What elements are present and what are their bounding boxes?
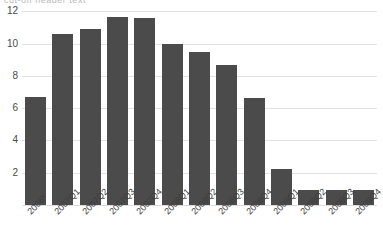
bar[interactable]	[189, 52, 210, 205]
y-axis-tick-label: 12	[0, 6, 18, 16]
bar[interactable]	[107, 17, 128, 205]
bar-series	[22, 0, 377, 206]
y-axis-tick-label: 4	[0, 135, 18, 145]
bar[interactable]	[216, 65, 237, 206]
y-axis-tick-label: 10	[0, 39, 18, 49]
bar[interactable]	[162, 44, 183, 206]
bar[interactable]	[52, 34, 73, 205]
bar[interactable]	[244, 98, 265, 205]
y-axis-tick-label: 8	[0, 71, 18, 81]
x-axis-labels: 2006*2007Q12007Q22007Q32007Q42008Q12008Q…	[22, 206, 377, 249]
y-axis-tick-label: 2	[0, 168, 18, 178]
plot-area	[22, 0, 377, 206]
y-axis-tick-label: 6	[0, 103, 18, 113]
bar[interactable]	[80, 29, 101, 205]
bar[interactable]	[25, 97, 46, 205]
bar[interactable]	[134, 18, 155, 205]
